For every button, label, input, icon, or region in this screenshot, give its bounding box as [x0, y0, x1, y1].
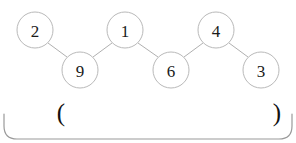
- edge-9-1: [93, 43, 112, 57]
- node-3[interactable]: 3: [243, 52, 279, 88]
- node-label: 9: [76, 62, 85, 81]
- edge-2-9: [48, 43, 67, 57]
- node-9[interactable]: 9: [62, 52, 98, 88]
- node-2[interactable]: 2: [17, 12, 53, 48]
- node-1[interactable]: 1: [107, 12, 143, 48]
- right-paren: ): [273, 99, 281, 127]
- underbracket: [4, 114, 292, 139]
- node-label: 3: [257, 62, 266, 81]
- node-6[interactable]: 6: [153, 52, 189, 88]
- graph-diagram: 2 9 1 6 4 3 (: [0, 0, 296, 143]
- left-paren: (: [57, 99, 65, 127]
- edge-1-6: [138, 43, 158, 57]
- figure-canvas: 2 9 1 6 4 3 (: [0, 0, 296, 143]
- node-label: 2: [31, 22, 40, 41]
- edge-4-3: [229, 43, 248, 57]
- node-label: 6: [167, 62, 176, 81]
- paren-group: ( ): [57, 99, 281, 127]
- node-4[interactable]: 4: [198, 12, 234, 48]
- node-label: 4: [212, 22, 221, 41]
- node-label: 1: [121, 22, 130, 41]
- edge-6-4: [184, 43, 203, 57]
